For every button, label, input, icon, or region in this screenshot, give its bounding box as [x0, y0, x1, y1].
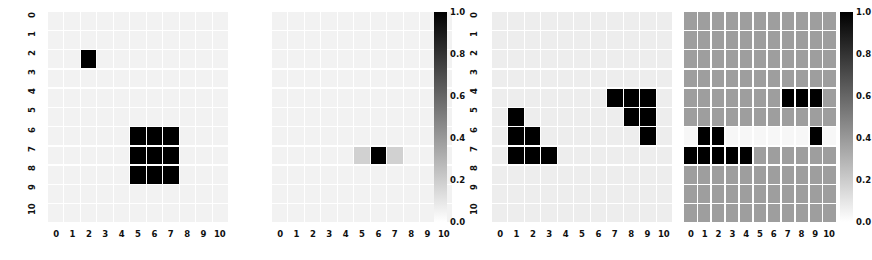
- heatmap-cell: [147, 12, 162, 30]
- heatmap-cell: [508, 204, 523, 222]
- heatmap-cell: [354, 108, 369, 126]
- heatmap-cell: [740, 108, 753, 126]
- ytick-label: 8: [24, 165, 40, 184]
- heatmap-cell: [130, 31, 145, 49]
- xtick-label: 3: [97, 228, 113, 240]
- heatmap-cell: [354, 70, 369, 88]
- ytick-label: 0: [466, 12, 482, 31]
- heatmap-cell: [48, 89, 63, 107]
- heatmap-cell: [371, 50, 386, 68]
- heatmap-cell: [354, 89, 369, 107]
- heatmap-cell: [114, 166, 129, 184]
- heatmap-cell: [591, 89, 606, 107]
- heatmap-cell: [657, 70, 672, 88]
- xtick-label: 7: [387, 228, 403, 240]
- heatmap-cell: [81, 12, 96, 30]
- heatmap-cell: [698, 31, 711, 49]
- heatmap-cell: [305, 12, 320, 30]
- colorbar-tick-label: 0.2: [450, 175, 465, 185]
- ytick-label: 5: [24, 107, 40, 126]
- heatmap-cell: [272, 108, 287, 126]
- heatmap-cell: [404, 108, 419, 126]
- heatmap-cell: [64, 204, 79, 222]
- heatmap-cell: [754, 31, 767, 49]
- heatmap-cell: [404, 70, 419, 88]
- ytick-label: 8: [466, 165, 482, 184]
- heatmap-cell: [624, 204, 639, 222]
- heatmap-cell: [371, 166, 386, 184]
- heatmap-cell: [64, 127, 79, 145]
- heatmap-cell: [624, 185, 639, 203]
- heatmap-cell: [272, 31, 287, 49]
- heatmap-cell: [796, 89, 809, 107]
- colorbar-tick-label: 0.4: [856, 133, 871, 143]
- heatmap-cell: [607, 50, 622, 68]
- colorbar-tick-label: 0.0: [450, 217, 465, 227]
- heatmap-cell: [305, 185, 320, 203]
- heatmap-cell: [640, 70, 655, 88]
- heatmap-cell: [213, 70, 228, 88]
- heatmap-cell: [371, 89, 386, 107]
- heatmap-cell: [525, 12, 540, 30]
- heatmap-cell: [684, 204, 697, 222]
- xtick-label: 6: [146, 228, 162, 240]
- heatmap-cell: [64, 108, 79, 126]
- heatmap-cell: [525, 127, 540, 145]
- heatmap-cell: [114, 185, 129, 203]
- colorbar-tick-label: 1.0: [856, 7, 871, 17]
- heatmap-cell: [810, 70, 823, 88]
- heatmap-cell: [640, 204, 655, 222]
- panel-4-colorbar-gradient: [840, 12, 853, 222]
- heatmap-cell: [726, 147, 739, 165]
- panel-1-ytick-labels: 012345678910: [24, 12, 40, 222]
- heatmap-cell: [740, 70, 753, 88]
- ytick-label: 10: [466, 203, 482, 222]
- panel-4-xtick-labels: 012345678910: [684, 228, 836, 240]
- heatmap-cell: [338, 12, 353, 30]
- heatmap-cell: [81, 127, 96, 145]
- heatmap-cell: [387, 50, 402, 68]
- heatmap-cell: [684, 50, 697, 68]
- heatmap-cell: [130, 50, 145, 68]
- heatmap-cell: [525, 89, 540, 107]
- heatmap-cell: [640, 89, 655, 107]
- heatmap-cell: [288, 204, 303, 222]
- heatmap-cell: [574, 127, 589, 145]
- heatmap-cell: [684, 12, 697, 30]
- heatmap-cell: [64, 147, 79, 165]
- heatmap-cell: [147, 89, 162, 107]
- heatmap-cell: [624, 127, 639, 145]
- heatmap-cell: [130, 204, 145, 222]
- heatmap-cell: [387, 31, 402, 49]
- ytick-label: 2: [466, 50, 482, 69]
- heatmap-cell: [130, 89, 145, 107]
- xtick-label: 0: [492, 228, 508, 240]
- panel-1-xtick-labels: 012345678910: [48, 228, 228, 240]
- heatmap-cell: [147, 147, 162, 165]
- heatmap-cell: [305, 50, 320, 68]
- heatmap-cell: [823, 50, 836, 68]
- heatmap-cell: [684, 89, 697, 107]
- heatmap-cell: [726, 166, 739, 184]
- heatmap-cell: [387, 108, 402, 126]
- heatmap-cell: [640, 12, 655, 30]
- heatmap-cell: [508, 50, 523, 68]
- xtick-label: 10: [656, 228, 672, 240]
- heatmap-cell: [810, 147, 823, 165]
- heatmap-cell: [81, 166, 96, 184]
- heatmap-cell: [492, 70, 507, 88]
- heatmap-cell: [404, 204, 419, 222]
- heatmap-cell: [114, 89, 129, 107]
- heatmap-cell: [371, 108, 386, 126]
- heatmap-cell: [213, 127, 228, 145]
- heatmap-cell: [541, 147, 556, 165]
- heatmap-cell: [404, 166, 419, 184]
- heatmap-cell: [607, 31, 622, 49]
- ytick-label: 5: [466, 107, 482, 126]
- heatmap-cell: [712, 12, 725, 30]
- heatmap-cell: [387, 89, 402, 107]
- heatmap-cell: [754, 50, 767, 68]
- panel-4-grid: [684, 12, 836, 222]
- heatmap-cell: [147, 185, 162, 203]
- heatmap-cell: [213, 166, 228, 184]
